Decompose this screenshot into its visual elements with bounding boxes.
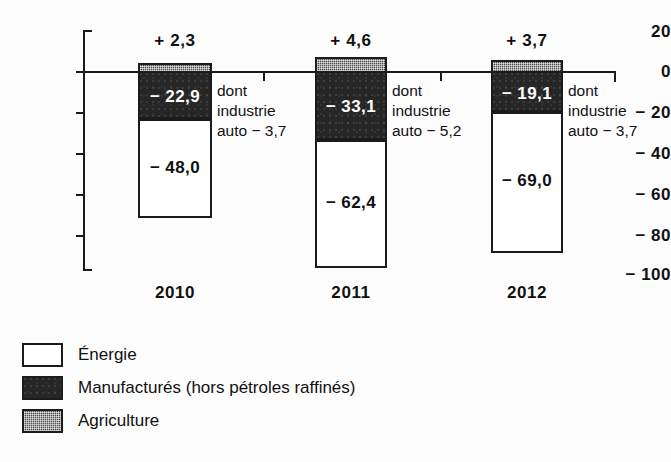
segment-energie-2011[interactable]: − 62,4: [315, 140, 387, 268]
y-tick-minus40: [76, 153, 84, 155]
legend-item-manufactures[interactable]: Manufacturés (hors pétroles raffinés): [22, 373, 662, 406]
annotation-2012-line3: auto − 3,7: [568, 121, 637, 141]
bar-total-label-2011: + 4,6: [315, 32, 387, 49]
y-axis-label-minus60: − 60: [597, 186, 671, 203]
x-axis-label-2010: 2010: [120, 284, 230, 301]
y-axis-label-minus40: − 40: [597, 145, 671, 162]
segment-value-manufactures-2012: − 19,1: [493, 85, 561, 102]
legend-swatch-energie-icon: [22, 343, 63, 367]
legend-swatch-manufactures-icon: [22, 376, 63, 400]
annotation-2011-line1: dont: [392, 81, 422, 101]
segment-manufactures-2011[interactable]: − 33,1: [315, 71, 387, 140]
y-axis-bottom-cap: [83, 269, 92, 271]
bar-total-label-2010: + 2,3: [138, 32, 212, 49]
segment-energie-2010[interactable]: − 48,0: [138, 119, 212, 218]
legend-swatch-agriculture-icon: [22, 409, 63, 433]
y-axis-top-cap: [83, 30, 92, 32]
legend: Énergie Manufacturés (hors pétroles raff…: [22, 340, 662, 439]
chart-page: 20 0 − 20 − 40 − 60 − 80 − 100 + 2,3 − 2…: [0, 0, 671, 462]
y-tick-minus20: [76, 112, 84, 114]
segment-value-manufactures-2010: − 22,9: [140, 88, 210, 105]
segment-manufactures-2010[interactable]: − 22,9: [138, 71, 212, 119]
y-axis-label-20: 20: [597, 23, 671, 40]
annotation-2011-line3: auto − 5,2: [392, 121, 461, 141]
legend-label-energie: Énergie: [78, 343, 137, 367]
legend-item-energie[interactable]: Énergie: [22, 340, 662, 373]
segment-value-manufactures-2011: − 33,1: [317, 98, 385, 115]
annotation-2010-line3: auto − 3,7: [217, 121, 286, 141]
annotation-2011-line2: industrie: [392, 101, 451, 121]
y-axis-label-minus80: − 80: [597, 227, 671, 244]
y-tick-minus80: [76, 235, 84, 237]
segment-value-energie-2011: − 62,4: [317, 194, 385, 211]
segment-energie-2012[interactable]: − 69,0: [491, 112, 563, 253]
category-separator-tick-1: [263, 73, 265, 81]
annotation-2010-line1: dont: [217, 81, 247, 101]
x-axis-label-2012: 2012: [472, 284, 582, 301]
category-separator-tick-2: [440, 73, 442, 81]
segment-value-energie-2010: − 48,0: [140, 159, 210, 176]
zero-baseline-end-cap: [614, 71, 616, 82]
annotation-2010-line2: industrie: [217, 101, 276, 121]
plot-area: 20 0 − 20 − 40 − 60 − 80 − 100 + 2,3 − 2…: [0, 0, 671, 320]
legend-label-manufactures: Manufacturés (hors pétroles raffinés): [78, 376, 355, 400]
y-axis-label-minus100: − 100: [597, 266, 671, 283]
annotation-2012-line1: dont: [568, 81, 598, 101]
bar-total-label-2012: + 3,7: [491, 32, 563, 49]
legend-label-agriculture: Agriculture: [78, 409, 159, 433]
legend-item-agriculture[interactable]: Agriculture: [22, 406, 662, 439]
y-tick-minus60: [76, 194, 84, 196]
segment-value-energie-2012: − 69,0: [493, 172, 561, 189]
annotation-2012-line2: industrie: [568, 101, 627, 121]
x-axis-label-2011: 2011: [296, 284, 406, 301]
segment-manufactures-2012[interactable]: − 19,1: [491, 71, 563, 112]
